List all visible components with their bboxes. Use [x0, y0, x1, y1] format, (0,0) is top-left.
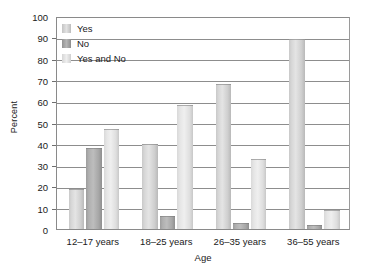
legend-label: Yes — [77, 23, 93, 34]
bar — [324, 210, 340, 229]
y-axis-tick-label: 0 — [14, 225, 48, 236]
bar-top-edge — [69, 189, 85, 190]
bar-top-edge — [160, 216, 176, 217]
y-axis-tick-label: 40 — [14, 139, 48, 150]
y-axis-tick-label: 20 — [14, 182, 48, 193]
bar — [307, 225, 323, 229]
y-axis-tick-label: 100 — [14, 12, 48, 23]
x-axis-tick-label: 26–35 years — [214, 236, 266, 247]
y-axis-tick-label: 10 — [14, 203, 48, 214]
y-axis-tick-label: 30 — [14, 161, 48, 172]
x-axis-tick-label: 12–17 years — [67, 236, 119, 247]
legend-swatch — [62, 24, 71, 33]
legend-label: No — [77, 38, 89, 49]
bar-top-edge — [177, 105, 193, 106]
gridline — [57, 81, 349, 82]
y-axis-tick-label: 60 — [14, 97, 48, 108]
bar — [142, 144, 158, 229]
bar — [233, 223, 249, 229]
bar — [216, 84, 232, 229]
bar — [251, 159, 267, 229]
bar-top-edge — [324, 210, 340, 211]
legend-item: Yes and No — [62, 51, 126, 65]
gridline — [57, 145, 349, 146]
bar — [104, 129, 120, 229]
gridline — [57, 103, 349, 104]
bar — [86, 148, 102, 229]
legend-swatch — [62, 39, 71, 48]
gridline — [57, 124, 349, 125]
legend-item: No — [62, 36, 126, 50]
bar-top-edge — [86, 148, 102, 149]
legend-swatch — [62, 54, 71, 63]
bar — [177, 105, 193, 229]
y-axis-tick-label: 90 — [14, 33, 48, 44]
bar — [69, 189, 85, 229]
y-axis-tick-label: 80 — [14, 54, 48, 65]
x-axis-title: Age — [56, 252, 350, 263]
bar-top-edge — [142, 144, 158, 145]
bar-top-edge — [233, 223, 249, 224]
legend: YesNoYes and No — [62, 21, 126, 66]
bar-top-edge — [289, 39, 305, 40]
y-axis-tick-label: 70 — [14, 75, 48, 86]
bar — [160, 216, 176, 229]
bar-top-edge — [251, 159, 267, 160]
bar-top-edge — [216, 84, 232, 85]
bar — [289, 39, 305, 229]
y-axis-tick-label: 50 — [14, 118, 48, 129]
legend-item: Yes — [62, 21, 126, 35]
bar-chart-figure: Percent 0102030405060708090100 YesNoYes … — [0, 0, 366, 275]
legend-label: Yes and No — [77, 53, 126, 64]
x-axis-tick-label: 36–55 years — [287, 236, 339, 247]
bar-top-edge — [104, 129, 120, 130]
x-axis-tick-label: 18–25 years — [140, 236, 192, 247]
bar-top-edge — [307, 225, 323, 226]
